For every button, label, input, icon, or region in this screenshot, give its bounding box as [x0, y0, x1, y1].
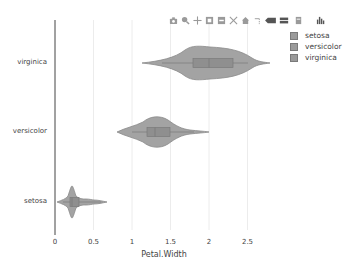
legend-swatch	[290, 43, 298, 51]
legend-swatch	[290, 54, 298, 62]
x-tick-1-5: 1.5	[165, 238, 176, 246]
modebar	[168, 13, 327, 27]
y-label-versicolor: versicolor	[3, 127, 47, 135]
legend-label: setosa	[305, 31, 330, 40]
violin-virginica[interactable]	[142, 46, 270, 80]
violin-versicolor[interactable]	[117, 117, 209, 147]
zoom-in-icon[interactable]	[204, 13, 215, 27]
hover-closest-icon[interactable]	[264, 13, 277, 27]
legend-item-versicolor[interactable]: versicolor	[290, 41, 342, 52]
y-label-setosa: setosa	[3, 197, 47, 205]
legend-label: virginica	[305, 53, 337, 62]
x-tick-2: 2	[207, 238, 211, 246]
legend: setosa versicolor virginica	[290, 30, 342, 63]
x-tick-1: 1	[130, 238, 134, 246]
autoscale-icon[interactable]	[228, 13, 239, 27]
edit-icon[interactable]	[293, 13, 304, 27]
camera-icon[interactable]	[168, 13, 179, 27]
plotly-logo-icon[interactable]	[315, 13, 326, 27]
home-icon[interactable]	[240, 13, 251, 27]
legend-label: versicolor	[305, 42, 342, 51]
violin-setosa[interactable]	[57, 186, 107, 218]
x-tick-2-5: 2.5	[242, 238, 253, 246]
spike-lines-icon[interactable]	[252, 13, 263, 27]
x-axis-title: Petal.Width	[141, 250, 187, 259]
legend-item-setosa[interactable]: setosa	[290, 30, 342, 41]
zoom-out-icon[interactable]	[216, 13, 227, 27]
x-tick-0-5: 0.5	[88, 238, 99, 246]
zoom-icon[interactable]	[180, 13, 191, 27]
hover-compare-icon[interactable]	[278, 13, 290, 27]
y-label-virginica: virginica	[3, 58, 47, 66]
pan-icon[interactable]	[192, 13, 203, 27]
legend-swatch	[290, 32, 298, 40]
x-tick-0: 0	[53, 238, 57, 246]
legend-item-virginica[interactable]: virginica	[290, 52, 342, 63]
